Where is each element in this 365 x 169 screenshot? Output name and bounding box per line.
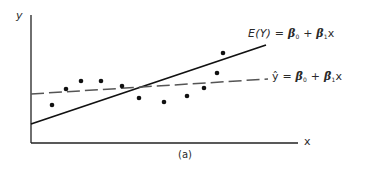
data-points [50, 51, 226, 108]
data-point [99, 79, 104, 84]
data-point [162, 100, 167, 105]
data-point [50, 103, 55, 108]
fitted-line-label: ŷ = β̂0 + β̂1x [272, 71, 342, 83]
data-point [215, 71, 220, 76]
data-point [202, 86, 207, 91]
y-axis-label: y [16, 10, 23, 21]
regression-lines [31, 45, 268, 124]
x-axis-label: x [304, 136, 311, 147]
fitted-regression-line [31, 79, 268, 94]
data-point [64, 87, 69, 92]
data-point [120, 84, 125, 89]
true-line-label: E(Y) = β0 + β1x [248, 28, 335, 40]
chart-caption: (a) [178, 150, 192, 160]
data-point [185, 94, 190, 99]
data-point [137, 96, 142, 101]
data-point [221, 51, 226, 56]
data-point [79, 79, 84, 84]
true-regression-line [31, 45, 266, 124]
